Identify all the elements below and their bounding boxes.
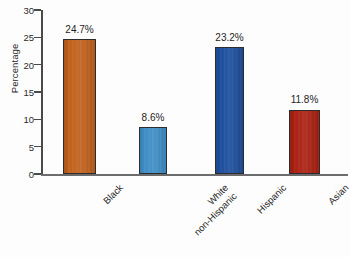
data-label: 23.2% — [215, 32, 243, 43]
bar — [289, 110, 320, 175]
x-axis-line — [41, 174, 348, 176]
bar — [215, 47, 244, 174]
bar — [63, 39, 96, 174]
data-label: 11.8% — [291, 94, 319, 105]
data-label: 24.7% — [65, 24, 93, 35]
data-label: 8.6% — [142, 112, 165, 123]
x-axis-label: Hispanic — [254, 182, 288, 216]
x-axis-label: Asian — [325, 182, 350, 207]
x-axis-label: Black — [100, 182, 125, 207]
bar-texture — [64, 40, 95, 173]
bar-chart: Percentage 302520151050 24.7%8.6%23.2%11… — [0, 0, 350, 257]
x-axis-label: Whitenon-Hispanic — [183, 182, 239, 238]
bar-texture — [290, 111, 319, 174]
bar-texture — [140, 128, 166, 173]
x-label-line: Asian — [325, 182, 350, 207]
x-label-line: Black — [100, 182, 125, 207]
x-label-line: Hispanic — [254, 182, 288, 216]
bar — [139, 127, 167, 174]
bars-group — [0, 0, 350, 174]
bar-texture — [216, 48, 243, 173]
